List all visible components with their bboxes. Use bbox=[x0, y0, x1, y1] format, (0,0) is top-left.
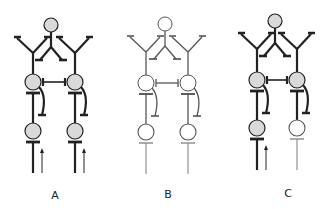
panel-label-b: B bbox=[164, 188, 172, 201]
panel-c-y-left-arm-r bbox=[257, 34, 271, 49]
panel-b-y-right-arm-l bbox=[172, 37, 188, 52]
panel-a-y-left-arm-l bbox=[17, 38, 33, 53]
panel-b-neuron-bot-right bbox=[180, 124, 196, 140]
panel-c-neuron-bot-right bbox=[289, 120, 305, 136]
panel-a-y-left-arm-r bbox=[33, 38, 47, 53]
panel-b-y-left-arm-l bbox=[130, 37, 146, 52]
network-diagram bbox=[0, 0, 328, 209]
panel-b-top-leg-left bbox=[154, 46, 165, 59]
panel-c-feedback-right bbox=[303, 85, 308, 113]
panel-a-neuron-mid-left bbox=[25, 74, 41, 90]
panel-label-c: C bbox=[284, 187, 292, 200]
panel-a-arrow-head-left-icon bbox=[40, 148, 44, 153]
panel-b-neuron-mid-left bbox=[138, 75, 154, 91]
panel-c-top-leg-right bbox=[275, 43, 286, 56]
panel-a-feedback-right bbox=[81, 87, 86, 115]
panel-a-neuron-bot-left bbox=[25, 123, 41, 139]
panel-b-y-left-arm-r bbox=[146, 37, 160, 52]
panel-c-neuron-mid-left bbox=[249, 72, 265, 88]
panel-c-feedback-left bbox=[263, 85, 268, 113]
panel-c-neuron-bot-left bbox=[249, 120, 265, 136]
panel-b-neuron-bot-left bbox=[138, 124, 154, 140]
panel-a-y-right-arm-r bbox=[75, 38, 89, 53]
panel-b-neuron-top bbox=[158, 17, 172, 31]
panel-c-y-right-arm-l bbox=[281, 34, 297, 49]
panel-c-top-leg-left bbox=[264, 43, 275, 56]
panel-a-top-leg-right bbox=[51, 47, 62, 60]
panel-c-y-left-arm-l bbox=[241, 34, 257, 49]
panel-b-neuron-mid-right bbox=[180, 75, 196, 91]
panel-c-y-right-arm-r bbox=[297, 34, 311, 49]
panel-b-top-leg-right bbox=[165, 46, 176, 59]
panel-label-a: A bbox=[51, 189, 59, 202]
panel-c-neuron-top bbox=[268, 14, 282, 28]
panel-a-y-right-arm-l bbox=[59, 38, 75, 53]
panel-a-top-leg-left bbox=[40, 47, 51, 60]
panel-c-neuron-mid-right bbox=[289, 72, 305, 88]
panel-a-neuron-mid-right bbox=[67, 74, 83, 90]
panel-b-y-right-arm-r bbox=[188, 37, 202, 52]
panel-a-feedback-left bbox=[39, 87, 44, 115]
panel-a-arrow-head-right-icon bbox=[82, 148, 86, 153]
panel-c-arrow-head-left-icon bbox=[264, 145, 268, 150]
panel-b-feedback-right bbox=[194, 88, 199, 116]
panel-a-neuron-bot-right bbox=[67, 123, 83, 139]
panel-a-neuron-top bbox=[44, 18, 58, 32]
panel-b-feedback-left bbox=[152, 88, 157, 116]
